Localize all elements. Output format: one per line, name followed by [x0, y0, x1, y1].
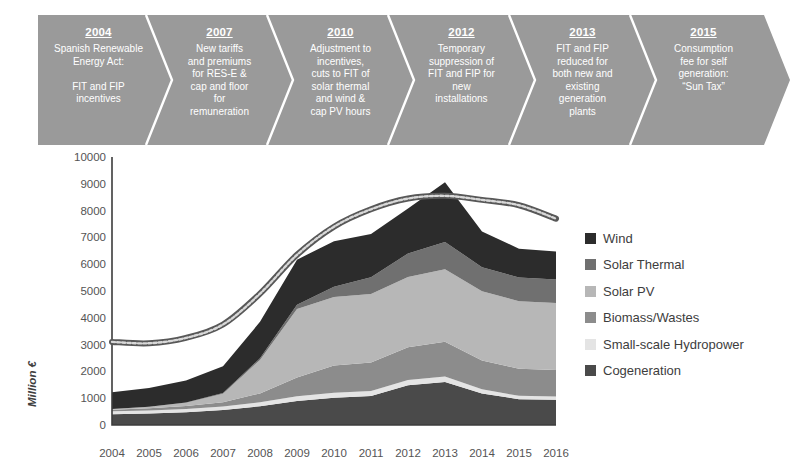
- timeline-step-2004: 2004Spanish Renewable Energy Act: FIT an…: [38, 15, 159, 145]
- x-axis-tick-label: 2005: [136, 447, 162, 459]
- x-axis-tick-label: 2007: [210, 447, 236, 459]
- x-axis-tick-label: 2011: [359, 447, 384, 459]
- x-axis-tick-label: 2013: [432, 447, 458, 459]
- x-axis-tick-label: 2006: [173, 447, 199, 459]
- legend-item-label: Solar Thermal: [603, 257, 684, 272]
- x-axis-tick-label: 2014: [469, 447, 495, 459]
- timeline-step-year: 2012: [448, 26, 474, 38]
- x-axis-tick-label: 2009: [284, 447, 310, 459]
- timeline-step-2010: 2010Adjustment to incentives, cuts to FI…: [280, 15, 401, 145]
- legend-swatch-icon: [585, 339, 596, 350]
- timeline-step-2007: 2007New tariffs and premiums for RES-E &…: [159, 15, 280, 145]
- timeline-step-description: Spanish Renewable Energy Act: FIT and FI…: [50, 43, 147, 106]
- y-axis-tick-label: 6000: [64, 258, 106, 270]
- y-axis-tick-label: 10000: [64, 151, 106, 163]
- legend-item: Biomass/Wastes: [585, 305, 793, 332]
- timeline-step-description: Adjustment to incentives, cuts to FIT of…: [306, 43, 375, 119]
- y-axis-ticks: 0100020003000400050006000700080009000100…: [60, 145, 106, 467]
- timeline-step-2013: 2013FIT and FIP reduced for both new and…: [522, 15, 643, 145]
- y-axis-tick-label: 5000: [64, 285, 106, 297]
- y-axis-tick-label: 2000: [64, 365, 106, 377]
- timeline-step-year: 2015: [690, 26, 716, 38]
- legend-swatch-icon: [585, 233, 596, 244]
- legend-item-label: Cogeneration: [603, 363, 681, 378]
- y-axis-tick-label: 4000: [64, 312, 106, 324]
- timeline-step-description: Temporary suppression of FIT and FIP for…: [424, 43, 499, 106]
- y-axis-tick-label: 1000: [64, 392, 106, 404]
- legend-item-label: Biomass/Wastes: [603, 310, 699, 325]
- x-axis-ticks: 2004200520062007200820092010201120122013…: [0, 435, 796, 459]
- policy-timeline: 2004Spanish Renewable Energy Act: FIT an…: [38, 15, 790, 145]
- timeline-step-year: 2007: [206, 26, 232, 38]
- chart-legend: WindSolar ThermalSolar PVBiomass/WastesS…: [585, 225, 793, 384]
- legend-item-label: Solar PV: [603, 284, 654, 299]
- timeline-step-description: FIT and FIP reduced for both new and exi…: [548, 43, 616, 119]
- x-axis-tick-label: 2008: [247, 447, 273, 459]
- legend-swatch-icon: [585, 365, 596, 376]
- x-axis-tick-label: 2016: [543, 447, 569, 459]
- timeline-step-description: Consumption fee for self generation: “Su…: [670, 43, 737, 93]
- y-axis-tick-label: 0: [64, 419, 106, 431]
- y-axis-tick-label: 8000: [64, 205, 106, 217]
- y-axis-tick-label: 9000: [64, 178, 106, 190]
- legend-item: Solar Thermal: [585, 252, 793, 279]
- x-axis-tick-label: 2015: [506, 447, 532, 459]
- timeline-step-year: 2010: [327, 26, 353, 38]
- timeline-step-description: New tariffs and premiums for RES-E & cap…: [184, 43, 255, 119]
- legend-item: Small-scale Hydropower: [585, 331, 793, 358]
- legend-swatch-icon: [585, 259, 596, 270]
- legend-item-label: Small-scale Hydropower: [603, 337, 744, 352]
- y-axis-tick-label: 7000: [64, 231, 106, 243]
- legend-item: Cogeneration: [585, 358, 793, 385]
- legend-item-label: Wind: [603, 231, 633, 246]
- timeline-step-2012: 2012Temporary suppression of FIT and FIP…: [401, 15, 522, 145]
- timeline-step-year: 2013: [569, 26, 595, 38]
- x-axis-tick-label: 2012: [395, 447, 421, 459]
- x-axis-tick-label: 2004: [99, 447, 125, 459]
- x-axis-tick-label: 2010: [321, 447, 347, 459]
- y-axis-label: Million €: [26, 361, 38, 407]
- timeline-step-2015: 2015Consumption fee for self generation:…: [643, 15, 764, 145]
- y-axis-tick-label: 3000: [64, 339, 106, 351]
- legend-swatch-icon: [585, 286, 596, 297]
- legend-swatch-icon: [585, 312, 596, 323]
- legend-item: Solar PV: [585, 278, 793, 305]
- timeline-step-year: 2004: [85, 26, 111, 38]
- legend-item: Wind: [585, 225, 793, 252]
